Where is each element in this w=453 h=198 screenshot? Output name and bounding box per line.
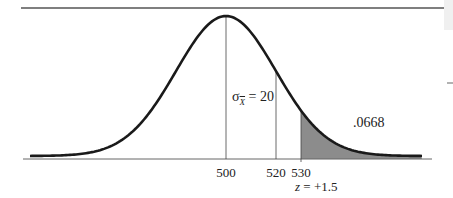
z-score-label: z = +1.5	[295, 180, 337, 193]
sigma-subscript: X	[240, 97, 246, 107]
tail-area-label: .0668	[353, 116, 385, 130]
sigma-value: = 20	[249, 89, 274, 104]
normal-distribution-figure: σX = 20 .0668 500 520 530 z = +1.5	[0, 0, 453, 198]
standard-error-label: σX = 20	[232, 90, 274, 104]
z-value: = +1.5	[300, 179, 337, 194]
tick-label-500: 500	[216, 166, 236, 179]
tick-label-530: 530	[291, 166, 311, 179]
tick-label-520: 520	[266, 166, 286, 179]
page-edge-shade	[444, 0, 453, 30]
sigma-symbol: σ	[232, 89, 240, 104]
